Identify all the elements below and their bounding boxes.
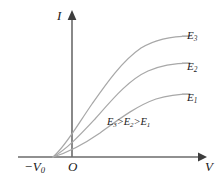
x-axis [18, 153, 207, 162]
origin-label: O [68, 160, 77, 173]
curve-E3 [53, 36, 190, 157]
stopping-voltage-base: −V [24, 159, 41, 174]
curve-E2 [53, 63, 190, 157]
curve-group [53, 36, 190, 157]
stopping-voltage-label: −V0 [24, 160, 45, 175]
curve-label-e3-base: E [187, 29, 194, 41]
relation-operator-1: >E [117, 116, 130, 127]
curve-label-e2-sub: 2 [194, 66, 198, 74]
curve-label-e1-base: E [187, 91, 194, 103]
curve-label-e1-sub: 1 [194, 97, 198, 105]
curve-label-e3-sub: 3 [194, 35, 198, 43]
y-axis-arrowhead [68, 10, 77, 20]
curve-label-e1: E1 [187, 92, 197, 105]
curve-label-e2: E2 [187, 61, 197, 74]
relation-sub-1: 1 [147, 121, 150, 128]
curve-label-e3: E3 [187, 30, 197, 43]
y-axis-label: I [57, 9, 61, 22]
stopping-voltage-subscript: 0 [41, 165, 45, 175]
energy-relation-annotation: E3>E2>E1 [107, 117, 150, 129]
photoelectric-iv-diagram: I V −V0 O E3 E2 E1 E3>E2>E1 [0, 0, 223, 183]
relation-operator-2: >E [133, 116, 146, 127]
y-axis [68, 10, 77, 157]
curve-label-e2-base: E [187, 60, 194, 72]
x-axis-label: V [205, 160, 213, 173]
